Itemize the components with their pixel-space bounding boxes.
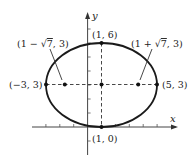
x-axis-label: x [170, 113, 176, 124]
point-top-vertex [100, 41, 104, 45]
label-bottom-vertex: (1, 0) [92, 133, 118, 144]
point-right-focus [136, 83, 140, 87]
point-left-focus [63, 83, 67, 87]
label-left-vertex: (−3, 3) [9, 79, 43, 90]
label-left-focus-suffix: , 3) [53, 38, 69, 49]
point-right-vertex [155, 83, 159, 87]
point-left-vertex [44, 83, 48, 87]
ellipse-figure: x y [0, 0, 194, 158]
label-left-focus: (1 − √7, 3) [17, 38, 69, 49]
label-right-focus-prefix: (1 + [131, 38, 155, 49]
label-right-focus-suffix: , 3) [167, 38, 183, 49]
point-bottom-vertex [100, 125, 104, 129]
point-center [100, 83, 104, 87]
label-top-vertex: (1, 6) [92, 29, 118, 40]
y-axis-label: y [91, 10, 98, 21]
label-right-vertex: (5, 3) [162, 79, 188, 90]
label-right-focus: (1 + √7, 3) [131, 38, 183, 49]
label-left-focus-prefix: (1 − [17, 38, 41, 49]
